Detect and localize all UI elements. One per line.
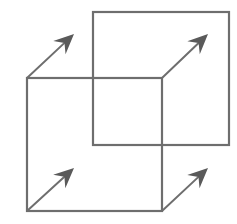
arrow-shaft <box>27 177 64 211</box>
arrow-top-right <box>162 34 208 78</box>
arrow-top-left <box>27 34 74 78</box>
arrow-shaft <box>27 43 65 78</box>
arrow-bottom-right <box>162 168 208 211</box>
cube-translation-diagram <box>0 0 237 224</box>
arrow-shaft <box>162 177 199 211</box>
arrow-shaft <box>162 43 199 78</box>
arrows-layer <box>27 34 208 211</box>
arrow-bottom-left <box>27 168 74 211</box>
